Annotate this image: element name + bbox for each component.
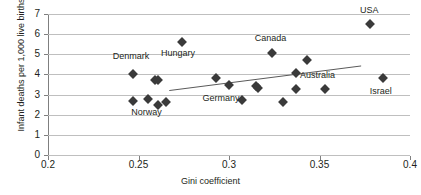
data-point-label: Norway — [131, 108, 162, 117]
scatter-chart: 01234567 0.20.250.30.350.4 DenmarkNorway… — [0, 0, 421, 195]
x-tick-label: 0.3 — [209, 160, 249, 170]
x-axis-title: Gini coefficient — [0, 176, 421, 186]
x-tick-label: 0.2 — [28, 160, 68, 170]
x-tick-label: 0.35 — [300, 160, 340, 170]
x-tick-label: 0.25 — [119, 160, 159, 170]
data-point-label: Israel — [370, 87, 392, 96]
data-point-label: Germany — [202, 94, 239, 103]
data-point-label: Hungary — [161, 49, 195, 58]
y-axis-title: Infant deaths per 1,000 live births — [16, 0, 26, 140]
data-point-label: Canada — [255, 34, 287, 43]
y-tick-label: 0 — [0, 150, 40, 160]
data-point-label: Australia — [300, 71, 335, 80]
data-point-label: USA — [360, 6, 379, 15]
x-tick-label: 0.4 — [390, 160, 421, 170]
data-point-label: Denmark — [113, 52, 150, 61]
